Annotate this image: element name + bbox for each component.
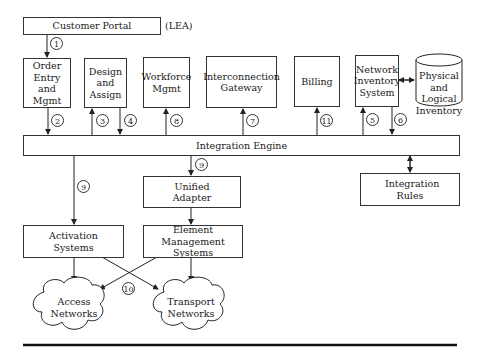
step-9-adapter-badge: 9: [195, 158, 208, 171]
interconnection-box: Interconnection Gateway: [206, 56, 277, 108]
unified-adapter-box: Unified Adapter: [143, 176, 241, 208]
interconnection-label: Interconnection Gateway: [203, 71, 280, 94]
integration-engine-label: Integration Engine: [196, 140, 287, 152]
order-entry-box: Order Entry and Mgmt: [23, 58, 71, 108]
customer-portal-label: Customer Portal: [53, 20, 132, 32]
design-assign-label: Design and Assign: [85, 66, 126, 101]
lea-label: (LEA): [165, 20, 193, 31]
design-assign-box: Design and Assign: [84, 58, 127, 108]
step-10-badge: 10: [122, 282, 135, 295]
step-8-badge: 8: [170, 114, 183, 127]
element-management-label: Element Management Systems: [144, 224, 242, 259]
element-management-box: Element Management Systems: [143, 225, 243, 258]
transport-networks-label: Transport Networks: [166, 296, 216, 319]
step-9-activation-badge: 9: [77, 180, 90, 193]
billing-box: Billing: [294, 56, 340, 107]
network-inventory-box: Network Inventory System: [355, 55, 399, 107]
access-networks-label: Access Networks: [50, 296, 98, 319]
order-entry-label: Order Entry and Mgmt: [24, 60, 70, 106]
network-inventory-label: Network Inventory System: [354, 64, 400, 99]
step-7-badge: 7: [246, 114, 259, 127]
step-3-badge: 3: [96, 114, 109, 127]
workforce-box: Workforce Mgmt: [143, 57, 190, 108]
integration-rules-box: Integration Rules: [360, 173, 460, 206]
step-1-badge: 1: [50, 37, 63, 50]
customer-portal-box: Customer Portal: [23, 17, 161, 35]
integration-rules-label: Integration Rules: [385, 178, 435, 201]
step-2-badge: 2: [51, 114, 64, 127]
step-6-badge: 6: [394, 113, 407, 126]
billing-label: Billing: [301, 76, 332, 88]
step-5-badge: 5: [366, 113, 379, 126]
integration-engine-bar: Integration Engine: [23, 135, 460, 156]
step-11-badge: 11: [320, 114, 333, 127]
activation-systems-box: Activation Systems: [23, 225, 124, 258]
workforce-label: Workforce Mgmt: [142, 71, 192, 94]
activation-label: Activation Systems: [49, 230, 99, 253]
unified-adapter-label: Unified Adapter: [172, 181, 212, 204]
step-4-badge: 4: [124, 114, 137, 127]
physical-logical-label: Physical and Logical Inventory: [415, 70, 463, 116]
